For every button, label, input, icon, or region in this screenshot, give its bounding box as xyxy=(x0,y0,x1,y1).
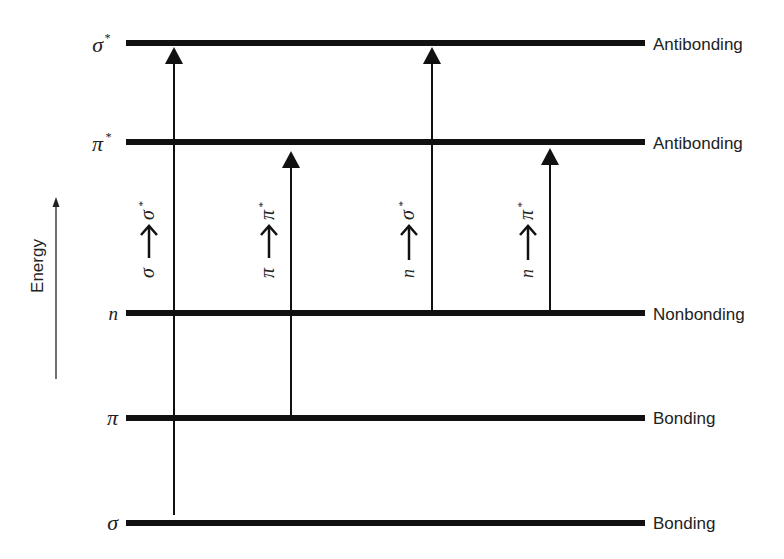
level-line xyxy=(126,139,645,145)
transition-label-n-to-pi-star: n π * xyxy=(515,202,537,278)
transition-label-sigma-to-sigma-star: σ σ * xyxy=(136,201,158,278)
level-type-label: Antibonding xyxy=(653,134,743,153)
transition-n-to-sigma-star xyxy=(423,47,441,313)
transition-to-superscript: * xyxy=(256,202,268,208)
level-sigma: σ Bonding xyxy=(107,510,715,535)
energy-axis: Energy xyxy=(28,197,60,379)
level-superscript: * xyxy=(104,31,110,45)
transition-arrowhead-icon xyxy=(282,151,300,168)
level-type-label: Bonding xyxy=(653,514,715,533)
level-superscript: * xyxy=(105,130,111,144)
transition-labels: σ σ * π π * n σ * n π * xyxy=(136,201,537,278)
transition-sigma-to-sigma-star xyxy=(165,47,183,515)
transition-from-symbol: σ xyxy=(136,267,158,278)
level-pi: π Bonding xyxy=(107,405,715,430)
transition-arrowhead-icon xyxy=(165,47,183,64)
level-symbol: σ xyxy=(107,510,119,535)
level-pi-star: π * Antibonding xyxy=(92,130,743,156)
energy-levels: σ * Antibonding π * Antibonding n Nonbon… xyxy=(92,31,745,535)
level-type-label: Bonding xyxy=(653,409,715,428)
level-symbol: n xyxy=(109,303,119,324)
transition-label-n-to-sigma-star: n σ * xyxy=(396,201,418,278)
transition-to-symbol: σ xyxy=(136,209,158,220)
level-symbol: π xyxy=(107,405,119,430)
transitions xyxy=(165,47,559,515)
level-type-label: Antibonding xyxy=(653,35,743,54)
level-line xyxy=(126,310,645,316)
transition-from-symbol: n xyxy=(517,269,537,278)
level-symbol: σ xyxy=(92,32,104,57)
transition-arrowhead-icon xyxy=(541,148,559,165)
level-line xyxy=(126,520,645,526)
energy-axis-arrowhead-icon xyxy=(53,197,60,207)
transition-label-pi-to-pi-star: π π * xyxy=(256,202,278,278)
transition-pi-to-pi-star xyxy=(282,151,300,418)
transition-to-superscript: * xyxy=(136,201,148,207)
level-sigma-star: σ * Antibonding xyxy=(92,31,743,57)
transition-arrowhead-icon xyxy=(423,47,441,64)
energy-axis-label: Energy xyxy=(28,239,47,293)
level-line xyxy=(126,40,645,46)
transition-to-superscript: * xyxy=(396,201,408,207)
transition-to-superscript: * xyxy=(515,202,527,208)
transition-from-symbol: π xyxy=(256,267,278,278)
level-type-label: Nonbonding xyxy=(653,305,745,324)
transition-to-symbol: σ xyxy=(396,209,418,220)
level-line xyxy=(126,415,645,421)
transition-n-to-pi-star xyxy=(541,148,559,313)
transition-to-symbol: π xyxy=(256,209,278,220)
energy-level-diagram: Energy σ * Antibonding π * Antibonding n… xyxy=(0,0,784,559)
transition-from-symbol: n xyxy=(398,269,418,278)
level-n: n Nonbonding xyxy=(109,303,745,324)
level-symbol: π xyxy=(92,131,104,156)
transition-to-symbol: π xyxy=(515,209,537,220)
